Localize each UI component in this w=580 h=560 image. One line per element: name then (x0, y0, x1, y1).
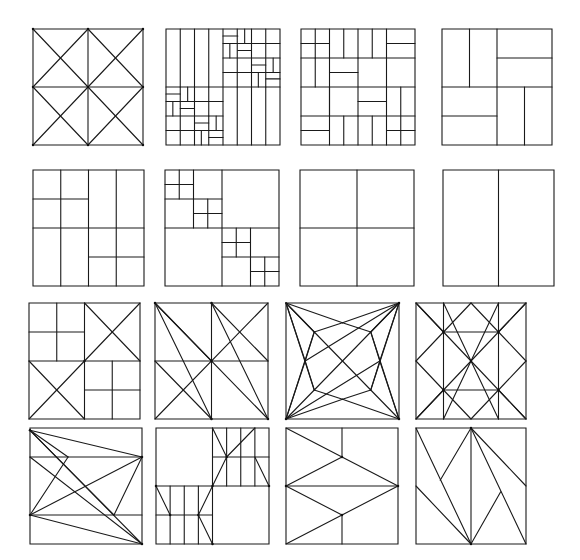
vertex-dot (32, 144, 34, 147)
vertex-dot (210, 302, 212, 305)
panel-line (314, 390, 342, 399)
panel-line (471, 428, 526, 486)
vertex-dot (341, 456, 343, 459)
panel-line (305, 303, 399, 361)
panel-line (314, 323, 342, 332)
panel-line (198, 486, 212, 515)
panel-drawing (442, 29, 552, 145)
vertex-dot (83, 360, 85, 363)
vertex-dot (211, 543, 213, 546)
panel-line (416, 486, 471, 544)
panel-drawing (286, 428, 398, 544)
vertex-dot (398, 418, 400, 421)
vertex-dot (211, 485, 213, 488)
panel-line (342, 457, 398, 486)
panel-drawing (416, 303, 526, 419)
vertex-dot (398, 302, 400, 305)
panel-line (286, 486, 342, 515)
panel-line (286, 515, 342, 544)
panel-line (416, 303, 444, 332)
panel-line (30, 430, 142, 457)
diagram-panel-r1c4 (442, 29, 552, 145)
vertex-dot (87, 86, 89, 89)
panel-drawing (286, 303, 399, 419)
panel-drawing (33, 170, 144, 286)
panel-drawing (155, 303, 268, 419)
panel-line (342, 486, 398, 515)
panel-line (471, 428, 526, 544)
vertex-dot (210, 360, 212, 363)
panel-line (343, 303, 400, 323)
vertex-dot (442, 389, 444, 392)
vertex-dot (285, 485, 287, 488)
vertex-dot (497, 389, 499, 392)
vertex-dot (470, 427, 472, 430)
vertex-dot (141, 543, 143, 546)
vertex-dot (142, 28, 144, 31)
panel-drawing (300, 170, 414, 286)
vertex-dot (341, 514, 343, 517)
panel-line (30, 457, 68, 515)
panel-line (286, 361, 380, 419)
panel-line (30, 430, 114, 515)
vertex-dot (155, 485, 157, 488)
diagram-panel-r1c3 (301, 29, 415, 145)
vertex-dot (285, 418, 287, 421)
vertex-dot (142, 144, 144, 147)
panel-drawing (166, 29, 280, 145)
vertex-dot (32, 28, 34, 31)
panel-line (30, 457, 142, 544)
diagram-panel-r3c3 (286, 303, 399, 419)
diagram-panel-r4c2 (156, 428, 269, 544)
panel-line (30, 515, 142, 544)
diagram-panel-r2c1 (33, 170, 144, 286)
vertex-dot (154, 302, 156, 305)
diagram-panel-r2c4 (443, 170, 554, 286)
vertex-dot (197, 514, 199, 517)
diagram-panel-r2c3 (300, 170, 414, 286)
panel-line (213, 457, 227, 486)
panel-drawing (33, 29, 143, 145)
panel-drawing (29, 303, 140, 419)
vertex-dot (29, 514, 31, 517)
vertex-dot (87, 144, 89, 147)
panel-line (156, 486, 170, 515)
diagram-panel-r4c1 (30, 428, 142, 544)
panel-line (440, 428, 471, 480)
panel-line (499, 303, 527, 332)
panel-line (213, 428, 227, 457)
vertex-dot (169, 514, 171, 517)
panel-line (343, 390, 371, 399)
panel-line (343, 399, 400, 419)
diagram-panel-r2c1_grid (166, 29, 280, 145)
diagram-panel-r4c3 (286, 428, 398, 544)
diagram-panel-r3c1 (29, 303, 140, 419)
vertex-dot (267, 418, 269, 421)
vertex-dot (470, 543, 472, 546)
panel-line (416, 390, 444, 419)
panel-line (286, 399, 343, 419)
panel-drawing (416, 428, 526, 544)
panel-line (471, 492, 501, 544)
panel-line (499, 390, 527, 419)
diagram-panel-r3c2 (155, 303, 268, 419)
vertex-dot (210, 418, 212, 421)
vertex-dot (32, 86, 34, 89)
panel-drawing (443, 170, 554, 286)
panel-line (30, 457, 142, 515)
vertex-dot (225, 456, 227, 459)
diagram-canvas (0, 0, 580, 560)
vertex-dot (397, 485, 399, 488)
vertex-dot (470, 360, 472, 363)
vertex-dot (29, 429, 31, 432)
panel-drawing (165, 170, 279, 286)
panel-drawing (301, 29, 415, 145)
panel-drawing (30, 428, 142, 544)
diagram-panel-r2c2 (165, 170, 279, 286)
panel-line (286, 303, 343, 323)
panel-line (416, 428, 471, 544)
vertex-dot (268, 485, 270, 488)
vertex-dot (142, 86, 144, 89)
panel-line (255, 457, 269, 486)
panel-line (286, 457, 342, 486)
